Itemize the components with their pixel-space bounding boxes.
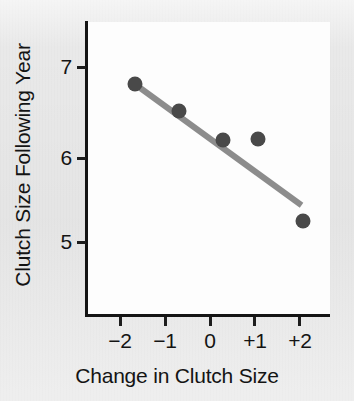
y-tick-label-0: 7 [61, 56, 72, 77]
y-tick-mark-1 [77, 157, 86, 160]
x-tick-mark-2 [209, 317, 212, 326]
chart-figure: 7 6 5 −2 −1 0 +1 +2 Change in Clutch Siz… [0, 0, 354, 401]
y-tick-mark-0 [77, 66, 86, 69]
data-point [128, 76, 143, 91]
x-tick-label-2: 0 [204, 330, 215, 351]
x-axis-title: Change in Clutch Size [0, 364, 354, 388]
x-tick-label-0: −2 [108, 330, 131, 351]
data-point [216, 132, 231, 147]
y-axis-title: Clutch Size Following Year [11, 43, 35, 286]
y-tick-label-2: 5 [61, 231, 72, 252]
x-tick-label-1: −1 [153, 330, 176, 351]
x-tick-label-4: +2 [288, 330, 311, 351]
x-tick-mark-4 [298, 317, 301, 326]
x-tick-mark-3 [253, 317, 256, 326]
data-point [171, 103, 186, 118]
y-axis-title-wrapper: Clutch Size Following Year [0, 0, 46, 330]
data-point [250, 131, 265, 146]
y-tick-label-1: 6 [61, 147, 72, 168]
plot-area [88, 22, 330, 316]
y-tick-mark-2 [77, 241, 86, 244]
x-tick-label-3: +1 [243, 330, 266, 351]
x-tick-mark-1 [164, 317, 167, 326]
data-point [295, 214, 310, 229]
x-tick-mark-0 [119, 317, 122, 326]
